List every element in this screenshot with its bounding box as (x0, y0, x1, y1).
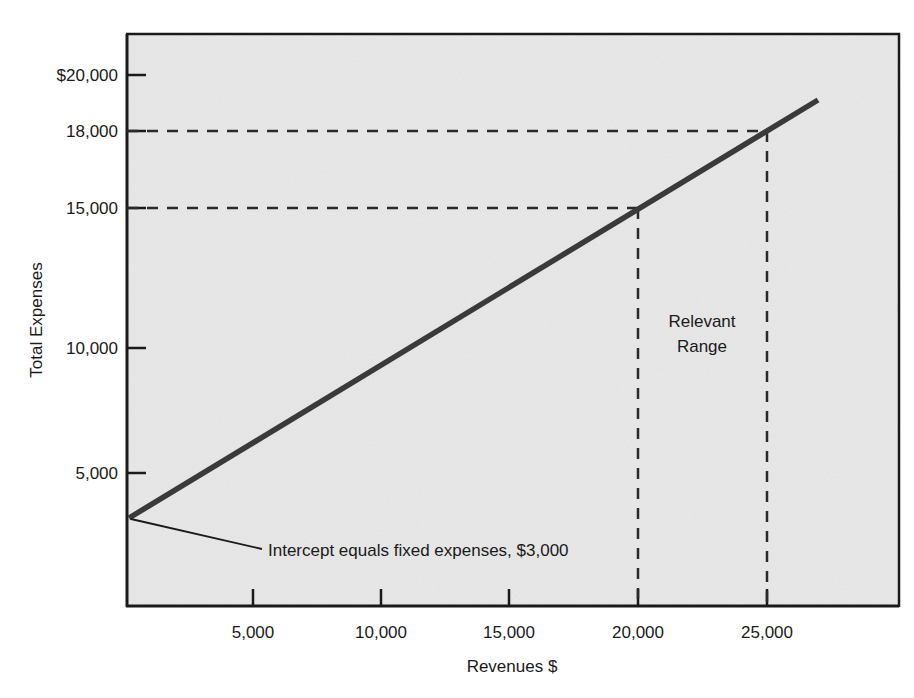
x-tick-label-25000: 25,000 (741, 623, 793, 642)
y-axis-title: Total Expenses (27, 262, 46, 377)
relevant-range-label-line2: Range (677, 337, 727, 356)
y-tick-label-20000: $20,000 (57, 66, 118, 85)
x-tick-label-15000: 15,000 (483, 623, 535, 642)
y-tick-label-5000: 5,000 (75, 464, 118, 483)
x-axis-title: Revenues $ (467, 657, 558, 676)
x-tick-label-20000: 20,000 (612, 623, 664, 642)
y-tick-label-10000: 10,000 (66, 339, 118, 358)
y-tick-label-15000: 15,000 (66, 199, 118, 218)
intercept-annotation-label: Intercept equals fixed expenses, $3,000 (268, 541, 569, 560)
y-tick-label-18000: 18,000 (66, 122, 118, 141)
expense-revenue-chart: $20,000 18,000 15,000 10,000 5,000 5,000… (0, 0, 914, 698)
relevant-range-label-line1: Relevant (668, 312, 735, 331)
chart-canvas: $20,000 18,000 15,000 10,000 5,000 5,000… (0, 0, 914, 698)
x-tick-label-5000: 5,000 (232, 623, 275, 642)
x-tick-label-10000: 10,000 (355, 623, 407, 642)
